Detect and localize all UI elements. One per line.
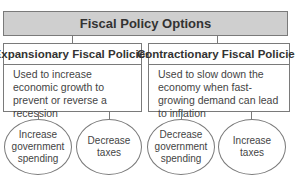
expansionary-description: Used to increase economic growth to prev… [4, 65, 141, 123]
option-increase-government-spending: Increase government spending [4, 119, 72, 175]
expansionary-heading: Expansionary Fiscal Policies [4, 44, 141, 65]
contractionary-box: Contractionary Fiscal Policies Used to s… [148, 43, 290, 112]
contractionary-description: Used to slow down the economy when fast-… [149, 65, 289, 123]
option-decrease-government-spending: Decrease government spending [147, 119, 215, 175]
option-label: Increase government spending [5, 129, 71, 165]
diagram-title: Fiscal Policy Options [3, 11, 288, 36]
connector-title-right [217, 36, 218, 43]
option-decrease-taxes: Decrease taxes [76, 119, 142, 175]
expansionary-box: Expansionary Fiscal Policies Used to inc… [3, 43, 142, 112]
option-label: Decrease taxes [77, 135, 141, 159]
option-label: Increase taxes [219, 135, 285, 159]
contractionary-heading: Contractionary Fiscal Policies [149, 44, 289, 65]
connector-title-left [72, 36, 73, 43]
option-increase-taxes: Increase taxes [218, 119, 286, 175]
option-label: Decrease government spending [148, 129, 214, 165]
diagram-title-text: Fiscal Policy Options [80, 16, 211, 31]
